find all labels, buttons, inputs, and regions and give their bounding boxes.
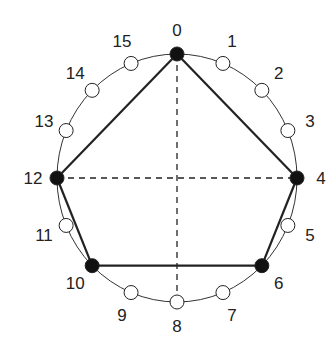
node-6-filled bbox=[255, 259, 269, 273]
node-label-1: 1 bbox=[227, 32, 236, 51]
node-label-0: 0 bbox=[172, 21, 181, 40]
node-label-11: 11 bbox=[35, 226, 53, 245]
node-5-empty bbox=[281, 218, 295, 232]
node-3-empty bbox=[281, 124, 295, 138]
node-11-empty bbox=[59, 218, 73, 232]
node-0-filled bbox=[170, 47, 184, 61]
node-label-7: 7 bbox=[227, 306, 236, 325]
node-13-empty bbox=[59, 124, 73, 138]
node-12-filled bbox=[50, 171, 64, 185]
node-15-empty bbox=[124, 56, 138, 70]
node-label-10: 10 bbox=[66, 274, 85, 293]
node-4-filled bbox=[290, 171, 304, 185]
node-label-9: 9 bbox=[117, 306, 126, 325]
node-label-3: 3 bbox=[305, 112, 314, 131]
node-label-2: 2 bbox=[274, 64, 283, 83]
node-8-empty bbox=[170, 295, 184, 309]
node-label-4: 4 bbox=[316, 169, 325, 188]
node-label-15: 15 bbox=[112, 32, 131, 51]
node-1-empty bbox=[216, 56, 230, 70]
node-label-5: 5 bbox=[305, 226, 314, 245]
node-14-empty bbox=[85, 83, 99, 97]
node-7-empty bbox=[216, 286, 230, 300]
node-label-6: 6 bbox=[274, 274, 283, 293]
node-label-14: 14 bbox=[66, 64, 85, 83]
node-label-8: 8 bbox=[172, 317, 181, 336]
node-2-empty bbox=[255, 83, 269, 97]
node-label-13: 13 bbox=[35, 112, 54, 131]
circular-pentagon-diagram: 0123456789101112131415 bbox=[0, 0, 335, 348]
node-9-empty bbox=[124, 286, 138, 300]
node-label-12: 12 bbox=[24, 169, 43, 188]
node-10-filled bbox=[85, 259, 99, 273]
